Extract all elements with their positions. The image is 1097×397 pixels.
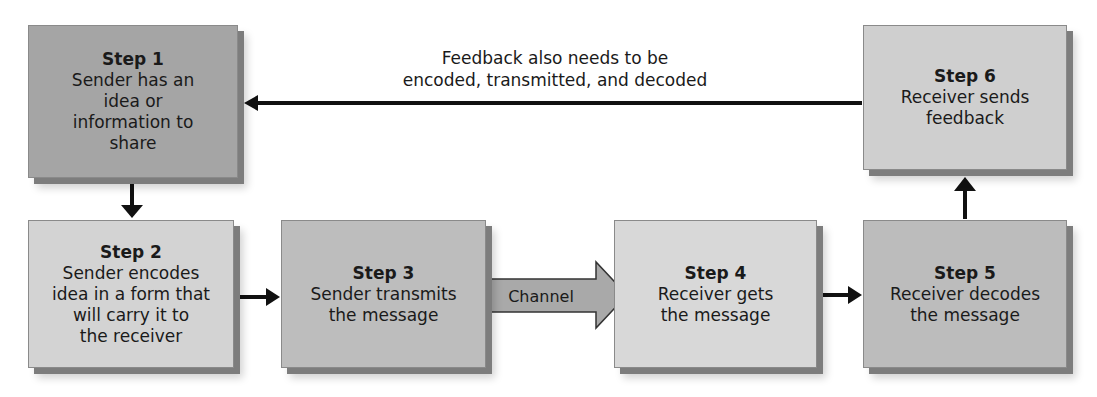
step-title: Step 1 <box>102 49 164 70</box>
step-description: Receiver gets the message <box>652 284 780 326</box>
step-description: Sender encodes idea in a form that will … <box>46 263 216 347</box>
step-title: Step 3 <box>353 263 415 284</box>
step-5-box: Step 5 Receiver decodes the message <box>863 220 1067 368</box>
down-arrow-icon <box>121 180 143 218</box>
step-title: Step 4 <box>685 263 747 284</box>
step-2-box: Step 2 Sender encodes idea in a form tha… <box>28 220 234 368</box>
feedback-label: Feedback also needs to be encoded, trans… <box>380 47 730 91</box>
step-description: Sender transmits the message <box>304 284 462 326</box>
step-title: Step 5 <box>934 263 996 284</box>
feedback-arrow-icon <box>244 95 862 111</box>
up-arrow-icon <box>954 177 976 219</box>
step-description: Sender has an idea or information to sha… <box>66 70 200 154</box>
feedback-label-line1: Feedback also needs to be <box>380 47 730 69</box>
feedback-label-line2: encoded, transmitted, and decoded <box>380 69 730 91</box>
step-3-box: Step 3 Sender transmits the message <box>281 220 486 368</box>
step-title: Step 2 <box>100 242 162 263</box>
channel-label: Channel <box>488 281 594 311</box>
step-6-box: Step 6 Receiver sends feedback <box>863 25 1067 170</box>
step-title: Step 6 <box>934 66 996 87</box>
right-arrow-icon <box>822 286 862 304</box>
right-arrow-icon <box>240 288 280 306</box>
step-description: Receiver decodes the message <box>884 284 1046 326</box>
step-description: Receiver sends feedback <box>895 87 1036 129</box>
step-1-box: Step 1 Sender has an idea or information… <box>28 25 238 178</box>
step-4-box: Step 4 Receiver gets the message <box>614 220 817 368</box>
